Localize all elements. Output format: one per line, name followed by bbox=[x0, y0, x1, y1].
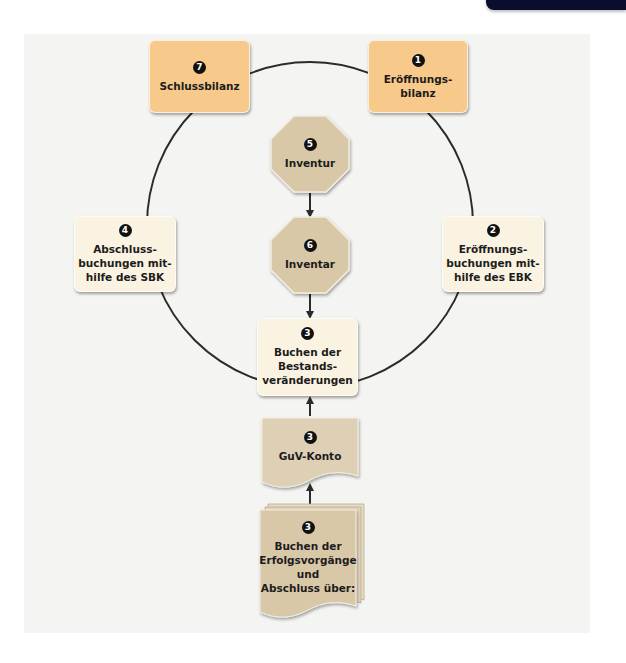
node-erfolgsvorgaenge: 3 Buchen der Erfolgsvorgänge und Abschlu… bbox=[260, 516, 356, 600]
node-guv-konto: 3 GuV-Konto bbox=[262, 424, 358, 470]
node-label: Eröffnungs- bilanz bbox=[384, 72, 453, 100]
node-label: Buchen der Bestands- veränderungen bbox=[262, 345, 353, 387]
node-label: Schlussbilanz bbox=[159, 79, 239, 93]
step-number-badge: 7 bbox=[193, 61, 206, 74]
step-number-badge: 5 bbox=[304, 138, 317, 151]
node-abschlussbuchungen: 4 Abschluss- buchungen mit- hilfe des SB… bbox=[74, 216, 176, 292]
node-label: Eröffnungs- buchungen mit- hilfe des EBK bbox=[446, 242, 539, 284]
node-label: Inventar bbox=[285, 257, 335, 271]
node-bestandsveraenderungen: 3 Buchen der Bestands- veränderungen bbox=[257, 318, 358, 396]
node-label: Buchen der Erfolgsvorgänge und Abschluss… bbox=[259, 539, 356, 595]
step-number-badge: 3 bbox=[301, 327, 314, 340]
step-number-badge: 3 bbox=[304, 431, 317, 444]
step-number-badge: 6 bbox=[304, 239, 317, 252]
step-number-badge: 1 bbox=[412, 54, 425, 67]
step-number-badge: 4 bbox=[119, 224, 132, 237]
node-eroeffnungsbuchungen: 2 Eröffnungs- buchungen mit- hilfe des E… bbox=[442, 216, 544, 292]
node-label: Abschluss- buchungen mit- hilfe des SBK bbox=[78, 242, 171, 284]
node-label: Inventur bbox=[285, 156, 336, 170]
step-number-badge: 2 bbox=[487, 224, 500, 237]
node-eroeffnungsbilanz: 1 Eröffnungs- bilanz bbox=[368, 40, 468, 113]
node-label: GuV-Konto bbox=[279, 449, 342, 463]
node-inventur: 5 Inventur bbox=[271, 116, 349, 192]
node-schlussbilanz: 7 Schlussbilanz bbox=[149, 40, 250, 113]
step-number-badge: 3 bbox=[302, 521, 315, 534]
node-inventar: 6 Inventar bbox=[271, 217, 349, 293]
